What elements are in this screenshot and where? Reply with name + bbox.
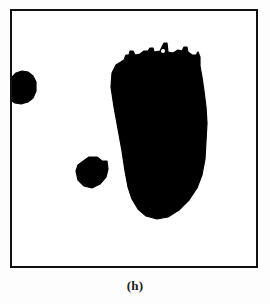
binary-mask-svg (12, 11, 256, 266)
figure-caption: (h) (0, 278, 270, 294)
mask-region-left-edge-blob (12, 71, 36, 104)
mask-hole-large-elongated-blob-0 (161, 49, 165, 53)
figure-container: (h) (0, 0, 270, 304)
binary-image-frame (10, 9, 258, 268)
